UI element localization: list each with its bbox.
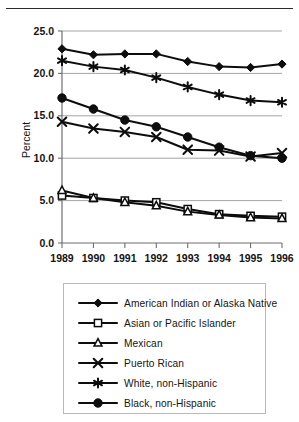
legend-asterisk-icon bbox=[76, 375, 120, 391]
legend-item-label: Asian or Pacific Islander bbox=[124, 318, 236, 329]
data-point-filled-circle bbox=[58, 94, 66, 102]
legend-item: Black, non-Hispanic bbox=[64, 393, 265, 413]
data-point-filled-diamond bbox=[246, 63, 254, 71]
legend-key-swatch bbox=[76, 315, 120, 331]
data-point-filled-diamond bbox=[278, 60, 286, 68]
data-point-filled-diamond bbox=[58, 45, 66, 53]
legend-item: Asian or Pacific Islander bbox=[64, 313, 265, 333]
legend-item-label: American Indian or Alaska Native bbox=[124, 298, 277, 309]
y-tick-label: 5.0 bbox=[39, 194, 54, 206]
x-tick-label: 1991 bbox=[113, 252, 137, 264]
data-point-filled-circle bbox=[89, 105, 97, 113]
legend-item: White, non-Hispanic bbox=[64, 373, 265, 393]
legend-key-swatch bbox=[76, 355, 120, 371]
x-tick-label: 1990 bbox=[82, 252, 106, 264]
data-point-filled-circle bbox=[215, 143, 223, 151]
y-tick-label: 20.0 bbox=[34, 67, 55, 79]
legend-item-label: Puerto Rican bbox=[124, 358, 184, 369]
legend-item: Puerto Rican bbox=[64, 353, 265, 373]
data-point-filled-circle bbox=[152, 123, 160, 131]
data-point-open-square bbox=[94, 319, 101, 326]
data-point-filled-diamond bbox=[89, 51, 97, 59]
legend-item: Mexican bbox=[64, 333, 265, 353]
y-tick-label: 15.0 bbox=[34, 109, 55, 121]
data-point-open-triangle bbox=[58, 186, 66, 193]
data-point-filled-diamond bbox=[121, 50, 129, 58]
data-point-filled-diamond bbox=[94, 299, 102, 307]
x-tick-label: 1995 bbox=[239, 252, 263, 264]
x-tick-label: 1989 bbox=[50, 252, 74, 264]
legend-filled-circle-icon bbox=[76, 395, 120, 411]
legend-open-square-icon bbox=[76, 315, 120, 331]
legend-key-swatch bbox=[76, 395, 120, 411]
legend-item: American Indian or Alaska Native bbox=[64, 293, 265, 313]
data-point-filled-circle bbox=[278, 154, 286, 162]
x-axis: 19891990199119921993199419951996 bbox=[50, 243, 294, 264]
series-mexican bbox=[58, 186, 286, 221]
legend-item-label: White, non-Hispanic bbox=[124, 378, 217, 389]
series-white-non-hispanic bbox=[58, 56, 286, 107]
chart-canvas: 0.05.010.015.020.025.0 19891990199119921… bbox=[0, 0, 299, 275]
data-series-group bbox=[58, 45, 287, 222]
legend-x-cross-icon bbox=[76, 355, 120, 371]
y-tick-label: 10.0 bbox=[34, 152, 55, 164]
legend-filled-diamond-icon bbox=[76, 295, 120, 311]
data-point-filled-circle bbox=[184, 133, 192, 141]
data-point-filled-diamond bbox=[184, 57, 192, 65]
x-tick-label: 1996 bbox=[270, 252, 294, 264]
chart-legend: American Indian or Alaska NativeAsian or… bbox=[63, 283, 266, 414]
data-point-filled-circle bbox=[121, 116, 129, 124]
x-tick-label: 1994 bbox=[207, 252, 231, 264]
data-point-open-triangle bbox=[94, 339, 102, 346]
data-point-filled-diamond bbox=[215, 63, 223, 71]
data-point-filled-circle bbox=[94, 399, 102, 407]
legend-open-triangle-icon bbox=[76, 335, 120, 351]
legend-item-label: Black, non-Hispanic bbox=[124, 398, 216, 409]
y-tick-label: 25.0 bbox=[34, 25, 55, 37]
x-tick-label: 1993 bbox=[176, 252, 200, 264]
y-axis-title: Percent bbox=[20, 122, 32, 158]
data-point-filled-circle bbox=[246, 151, 254, 159]
legend-key-swatch bbox=[76, 295, 120, 311]
legend-item-label: Mexican bbox=[124, 338, 163, 349]
y-tick-label: 0.0 bbox=[39, 237, 54, 249]
data-point-filled-diamond bbox=[152, 50, 160, 58]
legend-key-swatch bbox=[76, 375, 120, 391]
legend-key-swatch bbox=[76, 335, 120, 351]
x-tick-label: 1992 bbox=[145, 252, 169, 264]
line-chart-figure: 0.05.010.015.020.025.0 19891990199119921… bbox=[0, 0, 299, 275]
